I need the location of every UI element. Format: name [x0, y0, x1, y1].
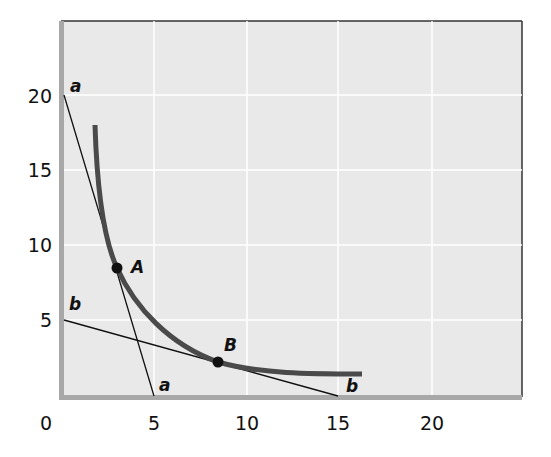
point-b-marker	[213, 357, 224, 368]
point-b-label: B	[224, 335, 237, 355]
y-axis	[59, 21, 64, 400]
x-tick-20: 20	[420, 412, 444, 434]
chart: A B a a b b 0 5 10 15 20 5 10 15 20	[0, 0, 551, 457]
y-tick-labels: 5 10 15 20	[28, 85, 52, 331]
y-tick-15: 15	[28, 159, 52, 181]
y-tick-5: 5	[40, 309, 52, 331]
x-tick-10: 10	[235, 412, 259, 434]
plot-area	[61, 21, 522, 397]
point-a-label: A	[129, 257, 144, 277]
x-tick-5: 5	[148, 412, 160, 434]
line-a-bottom-label: a	[159, 375, 170, 395]
x-tick-15: 15	[326, 412, 350, 434]
x-tick-labels: 0 5 10 15 20	[40, 412, 444, 434]
line-b-top-label: b	[69, 294, 81, 314]
line-a-top-label: a	[70, 76, 81, 96]
x-axis	[59, 395, 522, 400]
y-tick-20: 20	[28, 85, 52, 107]
point-a-marker	[112, 263, 123, 274]
x-tick-0: 0	[40, 412, 52, 434]
line-b-bottom-label: b	[346, 376, 358, 396]
y-tick-10: 10	[28, 234, 52, 256]
